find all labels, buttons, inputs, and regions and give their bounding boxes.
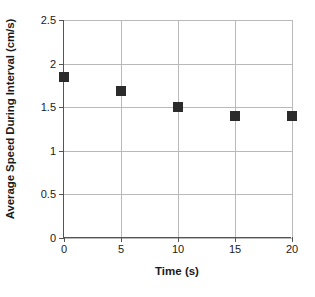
x-tick-label: 10 [172,243,184,255]
gridline-vertical [178,20,179,238]
x-tick-label: 15 [229,243,241,255]
x-tick-mark [64,237,65,242]
y-tick-mark [59,151,64,152]
x-tick-mark [292,237,293,242]
x-tick-mark [178,237,179,242]
x-tick-label: 20 [286,243,298,255]
plot-area: 00.511.522.5 05101520 [63,20,291,238]
data-point-marker [173,102,183,112]
y-tick-label: 1 [50,145,56,157]
y-tick-mark [59,20,64,21]
y-tick-mark [59,107,64,108]
y-tick-mark [59,64,64,65]
y-tick-label: 0 [50,232,56,244]
x-tick-mark [235,237,236,242]
gridline-vertical [235,20,236,238]
data-point-marker [287,111,297,121]
x-axis-title: Time (s) [63,265,291,277]
y-tick-mark [59,194,64,195]
x-tick-label: 0 [61,243,67,255]
chart-figure: Average Speed During Interval (cm/s) 00.… [0,0,315,297]
data-point-marker [230,111,240,121]
y-axis-title: Average Speed During Interval (cm/s) [0,0,20,238]
x-tick-label: 5 [118,243,124,255]
data-point-marker [59,72,69,82]
data-point-marker [116,86,126,96]
y-tick-label: 1.5 [41,101,56,113]
y-tick-label: 0.5 [41,188,56,200]
y-tick-label: 2 [50,58,56,70]
gridline-vertical [292,20,293,238]
x-tick-mark [121,237,122,242]
y-tick-label: 2.5 [41,14,56,26]
gridline-vertical [121,20,122,238]
